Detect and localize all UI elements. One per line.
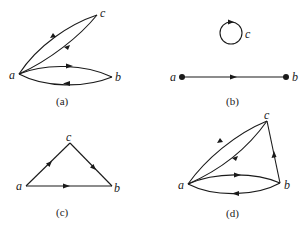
- vertex-a-label: a: [9, 68, 15, 82]
- arrow-icon: [234, 173, 241, 178]
- vertex-b-label: b: [115, 70, 121, 84]
- vertex-a-label: a: [170, 70, 176, 84]
- vertex-a-dot: [179, 74, 185, 80]
- edge-b-to-a-lower: [188, 183, 280, 194]
- vertex-c-label: c: [100, 6, 106, 20]
- panel-caption: (d): [226, 207, 239, 220]
- digraph-figure: a b c (a) c a b (b) a b c (c): [0, 0, 305, 228]
- panel-caption: (a): [56, 95, 69, 108]
- vertex-b-label: b: [284, 178, 290, 192]
- vertex-c-label: c: [264, 108, 270, 122]
- edge-a-to-b-upper: [19, 66, 112, 77]
- vertex-a-label: a: [178, 178, 184, 192]
- panel-caption: (c): [56, 206, 69, 219]
- arrow-icon: [272, 151, 277, 158]
- vertex-c-label: c: [245, 27, 251, 41]
- arrow-icon: [63, 184, 70, 189]
- vertex-b-label: b: [114, 181, 120, 195]
- edge-c-to-a-inner: [19, 15, 97, 74]
- panel-c: a b c (c): [16, 130, 120, 219]
- arrow-icon: [232, 191, 239, 196]
- vertex-b-dot: [283, 74, 289, 80]
- vertex-a-label: a: [16, 179, 22, 193]
- edge-a-to-c-outer: [19, 15, 97, 74]
- edge-c-loop: [220, 22, 242, 44]
- arrow-icon: [228, 20, 234, 25]
- vertex-b-label: b: [292, 70, 298, 84]
- arrow-icon: [230, 75, 237, 80]
- panel-a: a b c (a): [9, 6, 121, 108]
- edge-b-to-c: [267, 121, 280, 183]
- panel-d: a b c (d): [178, 108, 290, 220]
- edge-c-to-b: [70, 143, 112, 186]
- vertex-c-label: c: [66, 130, 72, 144]
- arrow-icon: [217, 138, 223, 143]
- panel-caption: (b): [226, 95, 239, 108]
- panel-b: c a b (b): [170, 20, 298, 109]
- arrow-icon: [66, 64, 73, 69]
